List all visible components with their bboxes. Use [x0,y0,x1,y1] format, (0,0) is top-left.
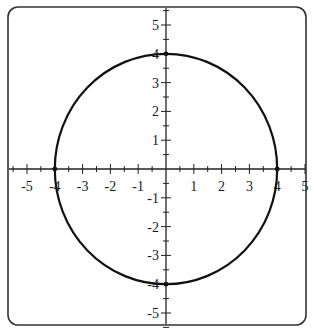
x-tick-label: -1 [132,179,144,194]
y-tick-label: 1 [152,133,159,148]
y-tick-label: 2 [152,104,159,119]
x-tick-label: -5 [21,179,33,194]
key-point-marker [164,282,169,287]
y-tick-label: -1 [147,191,159,206]
y-tick-label: 5 [152,18,159,33]
key-point-marker [52,167,57,172]
y-tick-label: -3 [147,248,159,263]
y-tick-label: -5 [147,306,159,321]
x-tick-label: 5 [302,179,309,194]
key-point-marker [164,51,169,56]
circle-plot: -5-4-3-2-11234554321-1-2-3-4-5 [0,0,314,335]
x-tick-label: 2 [218,179,225,194]
x-tick-label: 3 [246,179,253,194]
x-tick-label: 1 [190,179,197,194]
y-tick-label: -2 [147,220,159,235]
x-tick-label: -2 [105,179,117,194]
y-tick-label: 3 [152,76,159,91]
key-point-marker [275,167,280,172]
x-tick-label: -3 [77,179,89,194]
